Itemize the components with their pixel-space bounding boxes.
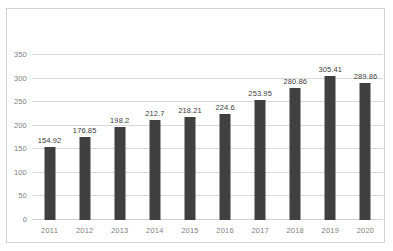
bar-group[interactable]: 212.72014 <box>137 55 172 220</box>
bar-group[interactable]: 176.852012 <box>67 55 102 220</box>
bar[interactable] <box>325 76 336 220</box>
bar[interactable] <box>114 127 125 220</box>
y-axis-tick-label: 0 <box>23 215 27 224</box>
x-axis-tick-label: 2017 <box>251 226 269 235</box>
bar-value-label: 218.21 <box>178 106 202 115</box>
bar[interactable] <box>360 83 371 220</box>
x-axis-tick-label: 2012 <box>76 226 94 235</box>
x-axis-tick-label: 2016 <box>216 226 234 235</box>
bars-group: 154.922011176.852012198.22013212.7201421… <box>32 55 383 220</box>
bar-group[interactable]: 253.952017 <box>243 55 278 220</box>
bar[interactable] <box>220 114 231 220</box>
bar-value-label: 280.86 <box>283 77 307 86</box>
bar-value-label: 289.86 <box>354 72 378 81</box>
bar-group[interactable]: 280.862018 <box>278 55 313 220</box>
bar-value-label: 224.6 <box>215 103 234 112</box>
bar-value-label: 305.41 <box>319 65 343 74</box>
bar-group[interactable]: 218.212015 <box>172 55 207 220</box>
bar-value-label: 253.95 <box>248 89 272 98</box>
y-axis-tick-label: 300 <box>14 73 27 82</box>
bar[interactable] <box>79 137 90 220</box>
x-axis-tick-label: 2011 <box>41 226 58 235</box>
y-axis-tick-label: 250 <box>14 97 27 106</box>
bar-value-label: 176.85 <box>73 126 97 135</box>
bar[interactable] <box>149 120 160 220</box>
x-axis-tick-label: 2019 <box>322 226 340 235</box>
x-axis-tick-label: 2020 <box>357 226 375 235</box>
y-axis-tick-label: 150 <box>14 144 27 153</box>
bar[interactable] <box>255 100 266 220</box>
bar-value-label: 154.92 <box>38 136 62 145</box>
y-axis-tick-label: 350 <box>14 50 27 59</box>
bar-group[interactable]: 224.62016 <box>208 55 243 220</box>
x-axis-tick-label: 2013 <box>111 226 129 235</box>
x-axis-tick-label: 2015 <box>181 226 199 235</box>
y-axis-tick-label: 200 <box>14 120 27 129</box>
y-axis-tick-label: 100 <box>14 167 27 176</box>
bar-group[interactable]: 305.412019 <box>313 55 348 220</box>
bar[interactable] <box>290 88 301 220</box>
y-axis-tick-label: 50 <box>18 191 27 200</box>
plot-area: 050100150200250300350 154.922011176.8520… <box>32 55 383 220</box>
x-axis-tick-label: 2018 <box>286 226 304 235</box>
bar-group[interactable]: 154.922011 <box>32 55 67 220</box>
bar[interactable] <box>44 147 55 220</box>
x-axis-tick-label: 2014 <box>146 226 164 235</box>
bar-value-label: 212.7 <box>145 109 164 118</box>
chart-container: 050100150200250300350 154.922011176.8520… <box>6 8 385 243</box>
bar-group[interactable]: 198.22013 <box>102 55 137 220</box>
bar-group[interactable]: 289.862020 <box>348 55 383 220</box>
bar-value-label: 198.2 <box>110 116 129 125</box>
bar[interactable] <box>184 117 195 220</box>
